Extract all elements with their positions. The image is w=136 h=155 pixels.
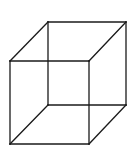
cube-edge-front-top-left-to-back-top-left [10, 22, 48, 61]
cube-edge-front-bottom-right-to-back-bottom-right [89, 105, 126, 144]
necker-cube-diagram [0, 0, 136, 155]
cube-edge-front-bottom-left-to-back-bottom-left [10, 105, 48, 144]
cube-edges [10, 22, 126, 144]
cube-edge-front-top-right-to-back-top-right [89, 22, 126, 61]
